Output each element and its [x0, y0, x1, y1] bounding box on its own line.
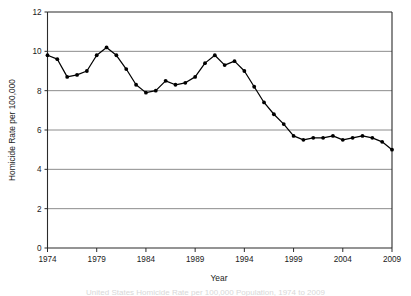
x-tick-label-1994: 1994 [235, 255, 254, 264]
data-point-1994 [242, 69, 246, 73]
data-point-1996 [262, 101, 266, 105]
data-point-1985 [154, 89, 158, 93]
data-point-2000 [302, 138, 306, 142]
data-point-1999 [292, 134, 296, 138]
x-tick-label-2004: 2004 [334, 255, 353, 264]
y-tick-label-12: 12 [32, 8, 42, 17]
data-point-2002 [321, 136, 325, 140]
data-point-2004 [341, 138, 345, 142]
figure-caption: United States Homicide Rate per 100,000 … [0, 289, 411, 296]
x-tick-label-1999: 1999 [284, 255, 303, 264]
y-tick-label-0: 0 [37, 244, 42, 253]
x-tick-group: 19741979198419891994199920042009 [38, 248, 401, 264]
x-tick-label-1989: 1989 [186, 255, 205, 264]
data-point-2006 [361, 134, 365, 138]
data-point-1980 [105, 46, 109, 50]
y-tick-label-4: 4 [37, 165, 42, 174]
data-point-1987 [174, 83, 178, 87]
data-point-1979 [95, 53, 99, 57]
y-tick-group: 024681012 [32, 8, 47, 253]
data-point-1977 [75, 73, 79, 77]
x-tick-label-1974: 1974 [38, 255, 57, 264]
data-point-1982 [124, 67, 128, 71]
data-point-1989 [193, 75, 197, 79]
data-point-1992 [223, 63, 227, 67]
data-point-1988 [183, 81, 187, 85]
data-point-1995 [252, 85, 256, 89]
homicide-rate-series-line [48, 47, 393, 149]
data-point-1993 [233, 59, 237, 63]
y-tick-label-10: 10 [32, 47, 42, 56]
y-tick-label-6: 6 [37, 126, 42, 135]
data-point-2008 [380, 140, 384, 144]
data-point-1997 [272, 112, 276, 116]
data-point-1986 [164, 79, 168, 83]
data-point-1981 [115, 53, 119, 57]
x-axis-title: Year [211, 273, 228, 283]
data-point-2005 [351, 136, 355, 140]
data-point-1974 [46, 53, 50, 57]
y-tick-label-8: 8 [37, 87, 42, 96]
data-point-1990 [203, 61, 207, 65]
x-tick-label-2009: 2009 [383, 255, 402, 264]
data-point-1976 [65, 75, 69, 79]
y-axis-title: Homicide Rate per 100,000 [7, 79, 17, 181]
data-point-1984 [144, 91, 148, 95]
gridlines-group [48, 51, 393, 208]
chart-canvas: 024681012 197419791984198919941999200420… [0, 0, 411, 296]
homicide-rate-series-markers [46, 46, 394, 152]
data-point-2003 [331, 134, 335, 138]
data-point-1978 [85, 69, 89, 73]
homicide-rate-line-chart: 024681012 197419791984198919941999200420… [0, 0, 411, 296]
data-point-1998 [282, 122, 286, 126]
data-point-1975 [55, 57, 59, 61]
data-point-2001 [311, 136, 315, 140]
data-point-1991 [213, 53, 217, 57]
x-tick-label-1984: 1984 [137, 255, 156, 264]
data-point-2007 [370, 136, 374, 140]
y-tick-label-2: 2 [37, 205, 42, 214]
data-point-1983 [134, 83, 138, 87]
x-tick-label-1979: 1979 [88, 255, 107, 264]
data-point-2009 [390, 148, 394, 152]
